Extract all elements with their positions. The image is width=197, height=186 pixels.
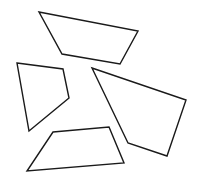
right-quadrilateral [92, 68, 186, 156]
shapes-canvas [0, 0, 197, 186]
top-quadrilateral [39, 12, 138, 64]
bottom-quadrilateral [27, 127, 124, 171]
left-quadrilateral [17, 63, 69, 131]
